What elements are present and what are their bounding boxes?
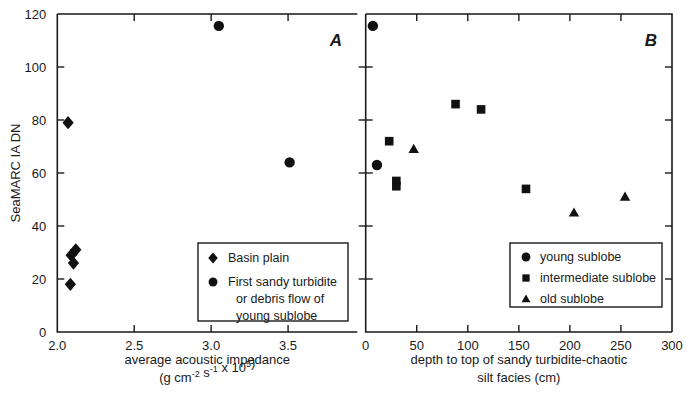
y-tick-label-20: 20 — [32, 272, 46, 287]
data-point-b-2-0 — [408, 144, 418, 153]
panel-a: 0204060801001202.02.53.03.5Aaverage acou… — [25, 7, 358, 385]
panel-b-x-tick-label-250: 250 — [610, 338, 632, 353]
data-point-b-1-0 — [385, 137, 394, 146]
panel-b-xlabel-line1: depth to top of sandy turbidite-chaotic — [410, 352, 627, 367]
y-tick-label-60: 60 — [32, 166, 46, 181]
data-point-b-1-4 — [477, 105, 486, 114]
scatter-figure: 0204060801001202.02.53.03.5Aaverage acou… — [0, 0, 690, 399]
data-point-a-0-4 — [65, 278, 76, 291]
panel-b-x-tick-label-300: 300 — [661, 338, 683, 353]
panel-b-legend-label-1: intermediate sublobe — [540, 271, 656, 285]
panel-a-legend-marker-1 — [209, 278, 218, 287]
panel-b-legend-marker-1 — [522, 274, 529, 281]
panel-a-legend-label-3: young sublobe — [236, 309, 317, 323]
y-axis-label: SeaMARC IA DN — [8, 124, 23, 223]
panel-b-x-tick-label-150: 150 — [508, 338, 530, 353]
panel-b-legend-label-0: young sublobe — [540, 250, 621, 264]
data-point-a-0-0 — [62, 116, 73, 129]
data-point-b-0-1 — [372, 160, 382, 170]
panel-b-legend-label-2: old sublobe — [540, 292, 604, 306]
y-tick-label-40: 40 — [32, 219, 46, 234]
panel-a-legend-label-1: First sandy turbidite — [228, 275, 337, 289]
data-point-a-1-0 — [214, 21, 224, 31]
y-tick-label-0: 0 — [39, 325, 46, 340]
y-tick-label-80: 80 — [32, 113, 46, 128]
data-point-b-0-0 — [368, 21, 378, 31]
x-tick-label-3.5: 3.5 — [279, 338, 297, 353]
panel-b-x-tick-label-200: 200 — [559, 338, 581, 353]
x-tick-label-2: 2.0 — [48, 338, 66, 353]
data-point-b-1-2 — [392, 182, 401, 191]
x-tick-label-3: 3.0 — [202, 338, 220, 353]
panel-b-legend-marker-0 — [522, 253, 531, 262]
x-tick-label-2.5: 2.5 — [125, 338, 143, 353]
panel-b-x-tick-label-100: 100 — [457, 338, 479, 353]
y-tick-label-120: 120 — [25, 7, 47, 22]
panel-b: 050100150200250300Bdepth to top of sandy… — [359, 14, 683, 385]
y-tick-label-100: 100 — [25, 60, 47, 75]
data-point-a-1-1 — [284, 157, 294, 167]
data-point-b-2-1 — [569, 207, 579, 216]
panel-b-letter: B — [645, 31, 657, 50]
panel-a-legend-label-2: or debris flow of — [236, 292, 325, 306]
data-point-b-1-5 — [522, 185, 531, 194]
data-point-b-2-2 — [620, 192, 630, 201]
panel-a-letter: A — [329, 31, 342, 50]
plot-canvas: 0204060801001202.02.53.03.5Aaverage acou… — [0, 0, 690, 399]
panel-a-legend-label-0: Basin plain — [228, 251, 289, 265]
panel-b-x-tick-label-0: 0 — [362, 338, 369, 353]
panel-b-x-tick-label-50: 50 — [410, 338, 424, 353]
data-point-b-1-3 — [451, 100, 460, 109]
panel-b-xlabel-line2: silt facies (cm) — [477, 370, 560, 385]
